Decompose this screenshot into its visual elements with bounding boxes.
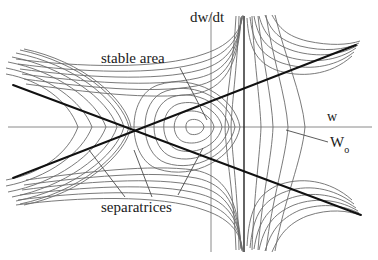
leader-lines-group: [89, 68, 328, 197]
w-axis-label: w: [327, 110, 337, 124]
separatrix-upper-left-to-lower-right: [13, 85, 361, 215]
leader-w0: [286, 130, 328, 142]
orbit-curve: [252, 16, 261, 250]
stable-area-label: stable area: [101, 51, 165, 66]
equilibrium-point-subscript: o: [344, 144, 349, 155]
leader-separatrix-1: [89, 150, 125, 197]
axes-group: [8, 14, 372, 252]
orbit-family-right-lower: [247, 181, 360, 252]
equilibrium-point-letter: W: [330, 134, 344, 150]
dwdt-axis-label: dw/dt: [190, 10, 224, 25]
orbit-curve: [272, 211, 360, 252]
separatrices-label: separatrices: [101, 200, 172, 215]
orbit-curve: [265, 206, 359, 251]
phase-portrait-canvas: [0, 0, 378, 260]
orbit-curve: [254, 194, 356, 249]
equilibrium-point-label: Wo: [330, 135, 349, 153]
phase-portrait-figure: dw/dt stable area separatrices w Wo: [0, 0, 378, 260]
